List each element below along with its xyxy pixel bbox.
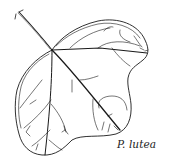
- leaf-outline: [15, 20, 148, 155]
- leaf-figure: P. lutea: [0, 0, 169, 164]
- petiole: [15, 10, 52, 50]
- figure-caption: P. lutea: [117, 138, 156, 150]
